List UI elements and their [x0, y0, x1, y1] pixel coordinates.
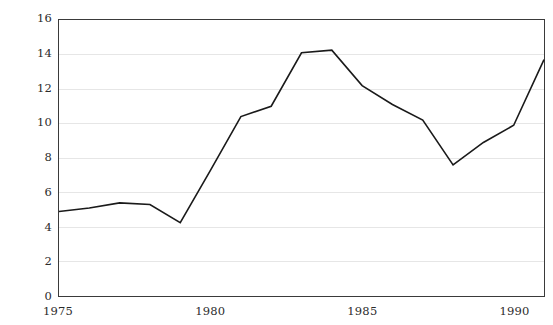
- plot-area: [58, 19, 545, 297]
- y-tick-label: 12: [6, 83, 52, 95]
- y-tick-label: 14: [6, 48, 52, 60]
- y-tick-label: 16: [6, 13, 52, 25]
- y-tick-label: 8: [6, 152, 52, 164]
- x-tick-label: 1990: [500, 306, 530, 318]
- line-chart: 0246810121416 1975198019851990: [0, 0, 553, 325]
- y-tick-label: 10: [6, 117, 52, 129]
- y-tick-label: 0: [6, 291, 52, 303]
- series-polyline: [59, 50, 544, 223]
- y-axis-tick-labels: 0246810121416: [0, 0, 52, 325]
- y-tick-label: 4: [6, 222, 52, 234]
- clipped-top-caption: [58, 0, 545, 2]
- y-tick-label: 2: [6, 256, 52, 268]
- data-series-line: [59, 20, 544, 296]
- x-tick-label: 1975: [43, 306, 73, 318]
- x-tick-label: 1985: [347, 306, 377, 318]
- y-tick-label: 6: [6, 187, 52, 199]
- x-tick-label: 1980: [195, 306, 225, 318]
